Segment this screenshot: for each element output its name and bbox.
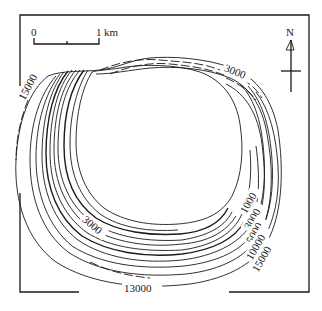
scale-bar: 0 1 km: [31, 26, 119, 44]
scale-start-label: 0: [31, 26, 37, 38]
scale-unit-label: km: [104, 26, 119, 38]
contour-lines: [16, 57, 281, 286]
contour-map: 0 1 km N: [0, 0, 322, 311]
contour-label-bottom: 13000: [124, 282, 152, 294]
north-label: N: [286, 26, 294, 38]
scale-end-label: 1: [96, 26, 102, 38]
north-arrow-icon: N: [281, 26, 301, 92]
contour-label-left: 15000: [16, 71, 40, 101]
